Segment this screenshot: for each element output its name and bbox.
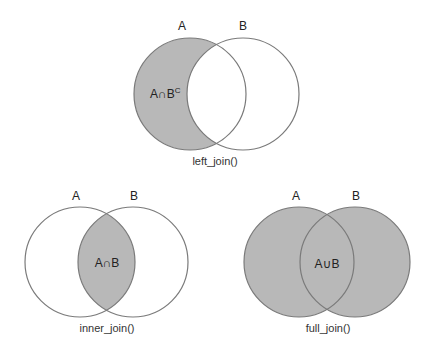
left-join-caption: left_join(): [192, 155, 237, 167]
inner-join-label-a: A: [72, 189, 80, 203]
full-join-label-b: B: [352, 189, 360, 203]
inner-join-label-b: B: [130, 189, 138, 203]
inner-join-diagram: A B A∩B inner_join(): [25, 189, 188, 334]
full-join-diagram: A B A∪B full_join(): [244, 189, 410, 334]
full-join-label-a: A: [292, 189, 300, 203]
left-join-circle-b: [187, 38, 299, 150]
full-join-region-label: A∪B: [315, 257, 340, 271]
left-join-label-b: B: [239, 19, 247, 33]
left-join-region-sup: C: [175, 86, 181, 95]
venn-diagram-figure: A B A∩BC left_join() A B A∩B inner_join(…: [0, 0, 429, 348]
left-join-label-a: A: [178, 19, 186, 33]
left-join-diagram: A B A∩BC left_join(): [134, 19, 299, 167]
inner-join-region-label: A∩B: [95, 256, 120, 270]
full-join-caption: full_join(): [306, 322, 351, 334]
inner-join-caption: inner_join(): [79, 322, 134, 334]
left-join-region-text: A∩B: [150, 87, 175, 101]
